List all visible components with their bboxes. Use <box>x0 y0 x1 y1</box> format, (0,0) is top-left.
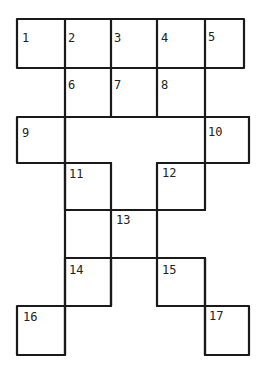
grid-lines <box>0 0 263 376</box>
cell-number-11: 11 <box>69 168 83 180</box>
cell-number-8: 8 <box>161 79 168 91</box>
cell-number-4: 4 <box>161 32 168 44</box>
cell-number-13: 13 <box>116 214 130 226</box>
cell-number-5: 5 <box>208 31 215 43</box>
cell-number-15: 15 <box>162 264 176 276</box>
cell-number-2: 2 <box>68 32 75 44</box>
crossword-grid: 1 2 3 4 5 6 7 8 9 10 11 12 13 14 15 16 1… <box>0 0 263 376</box>
cell-number-14: 14 <box>69 264 83 276</box>
cell-number-7: 7 <box>114 79 121 91</box>
cell-number-10: 10 <box>208 126 222 138</box>
cell-number-6: 6 <box>68 79 75 91</box>
cell-number-1: 1 <box>22 32 29 44</box>
cell-number-3: 3 <box>114 32 121 44</box>
cell-number-12: 12 <box>162 167 176 179</box>
cell-number-9: 9 <box>22 127 29 139</box>
cell-number-17: 17 <box>209 310 223 322</box>
cell-number-16: 16 <box>23 311 37 323</box>
